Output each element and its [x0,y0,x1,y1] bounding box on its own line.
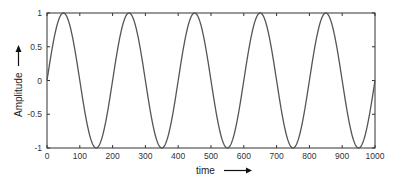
x-tick-label: 1000 [366,151,385,161]
y-tick-labels: -1-0.500.51 [27,8,42,153]
y-tick-label: -0.5 [27,109,42,119]
x-axis-title-group: time [196,165,252,176]
y-tick-label: 0 [37,76,42,86]
y-tick-label: 0.5 [30,42,42,52]
x-tick-label: 900 [335,151,349,161]
x-tick-label: 100 [73,151,87,161]
x-tick-label: 400 [171,151,185,161]
x-tick-label: 700 [270,151,284,161]
sine-wave-line [47,13,375,148]
x-tick-label: 800 [302,151,316,161]
x-tick-label: 500 [204,151,218,161]
y-axis-title: Amplitude [13,72,24,117]
x-tick-labels: 01002003004005006007008009001000 [45,151,385,161]
up-arrow-icon [16,45,22,66]
y-axis-title-group: Amplitude [13,45,24,117]
y-tick-label: -1 [34,143,42,153]
x-tick-label: 300 [138,151,152,161]
sine-chart: 01002003004005006007008009001000 -1-0.50… [0,0,396,183]
x-tick-label: 200 [106,151,120,161]
x-tick-label: 0 [45,151,50,161]
x-tick-label: 600 [237,151,251,161]
right-arrow-icon [224,168,252,174]
y-tick-label: 1 [37,8,42,18]
x-axis-title: time [196,165,215,176]
